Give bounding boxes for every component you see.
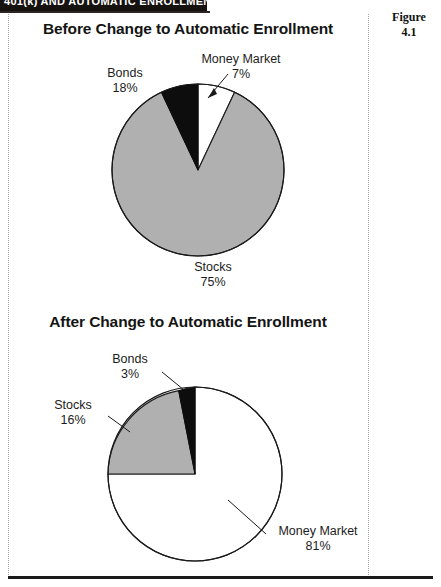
running-head-bar: 401(k) AND AUTOMATIC ENROLLMENT — [0, 0, 207, 11]
label-bonds-after-pct: 3% — [94, 367, 166, 382]
figure-label-number: 4.1 — [380, 25, 438, 40]
label-money-market-before-pct: 7% — [186, 67, 296, 82]
label-money-market-before: Money Market 7% — [186, 52, 296, 82]
running-head-rule — [0, 11, 210, 13]
bottom-rule — [8, 576, 433, 579]
label-bonds-before: Bonds 18% — [90, 66, 160, 96]
label-stocks-before-name: Stocks — [194, 260, 232, 274]
figure-number: Figure 4.1 — [380, 10, 438, 40]
label-money-market-after-name: Money Market — [278, 524, 357, 538]
chart-title-before: Before Change to Automatic Enrollment — [14, 20, 362, 38]
label-bonds-after-name: Bonds — [112, 352, 147, 366]
label-stocks-after-name: Stocks — [54, 398, 92, 412]
dotted-guide-left — [8, 14, 9, 575]
label-bonds-before-name: Bonds — [107, 66, 142, 80]
figure-label-word: Figure — [380, 10, 438, 25]
pie-chart-after — [107, 386, 283, 562]
label-bonds-after: Bonds 3% — [94, 352, 166, 382]
label-stocks-before: Stocks 75% — [168, 260, 258, 290]
running-head-text: 401(k) AND AUTOMATIC ENROLLMENT — [4, 0, 207, 7]
pie-chart-before — [111, 83, 285, 257]
label-money-market-after-pct: 81% — [262, 539, 374, 554]
label-stocks-after: Stocks 16% — [36, 398, 110, 428]
label-stocks-before-pct: 75% — [168, 275, 258, 290]
label-money-market-after: Money Market 81% — [262, 524, 374, 554]
label-money-market-before-name: Money Market — [201, 52, 280, 66]
figure-page: 401(k) AND AUTOMATIC ENROLLMENT Figure 4… — [0, 0, 441, 587]
chart-title-after: After Change to Automatic Enrollment — [14, 313, 362, 331]
label-bonds-before-pct: 18% — [90, 81, 160, 96]
dotted-guide-right — [368, 14, 369, 575]
label-stocks-after-pct: 16% — [36, 413, 110, 428]
